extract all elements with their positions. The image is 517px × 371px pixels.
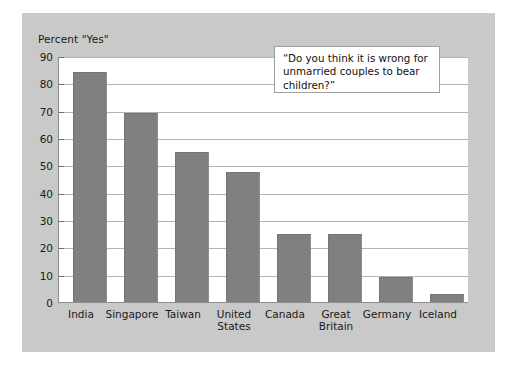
ytick-label-70: 70 [33,107,53,118]
xtick-label-great-britain-line2: Britain [301,321,371,333]
ytick-label-20: 20 [33,243,53,254]
ytick-label-0: 0 [33,298,53,309]
ytick-label-60: 60 [33,134,53,145]
ytick-label-30: 30 [33,216,53,227]
chart-figure: Percent "Yes" 90 80 70 60 [0,0,517,371]
xtick-label-iceland-line1: Iceland [403,309,473,321]
ytick-label-90: 90 [33,52,53,63]
xtick-label-iceland: Iceland [403,309,473,321]
survey-question-callout: “Do you think it is wrong for unmarried … [274,46,440,93]
ytick-label-80: 80 [33,79,53,90]
xtick-label-united-states-line2: States [199,321,269,333]
ytick-label-50: 50 [33,161,53,172]
ytick-label-40: 40 [33,189,53,200]
ytick-label-10: 10 [33,271,53,282]
